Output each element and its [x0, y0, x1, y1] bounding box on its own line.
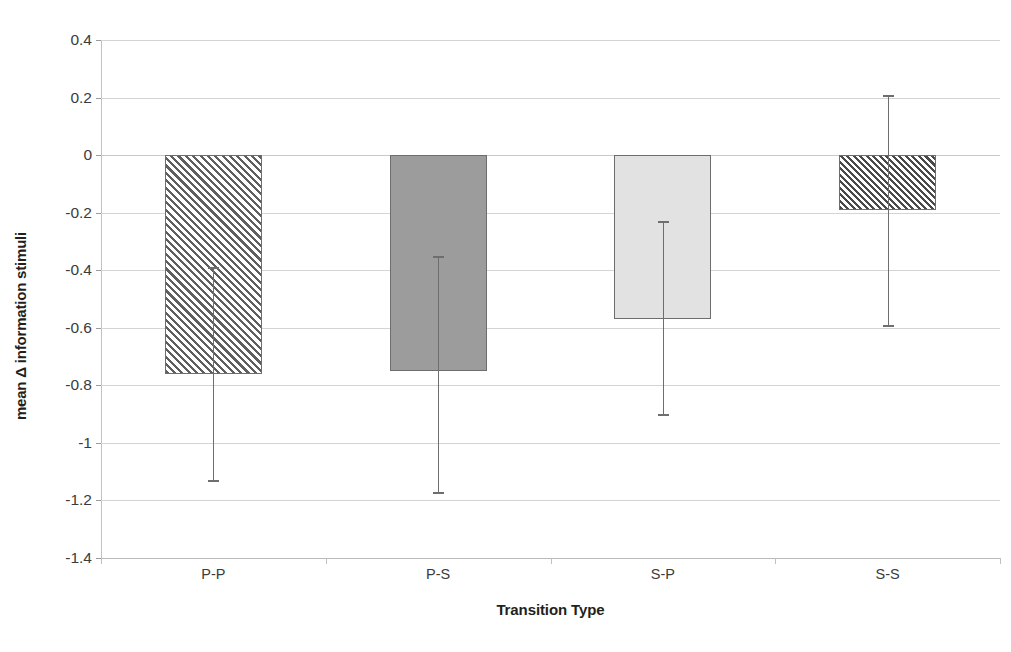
gridline [101, 500, 1000, 501]
error-bar-cap-lower [883, 325, 894, 327]
gridline [101, 98, 1000, 99]
error-bar-cap-lower [208, 480, 219, 482]
x-tick-label-p-p: P-P [201, 566, 225, 582]
y-tick-mark [96, 328, 101, 329]
y-tick-mark [96, 443, 101, 444]
x-tick-mark [101, 558, 102, 564]
y-tick-label: -1.2 [42, 491, 92, 509]
y-tick-label: -1 [42, 434, 92, 452]
x-tick-mark [775, 558, 776, 564]
error-bar-cap-lower [433, 492, 444, 494]
x-tick-mark [1000, 558, 1001, 564]
x-axis-title: Transition Type [101, 601, 1000, 618]
error-bar-stem [663, 221, 664, 414]
y-axis-title: mean Δ information stimuli [0, 0, 40, 652]
error-bar-cap-upper [883, 95, 894, 97]
y-tick-label: -0.6 [42, 319, 92, 337]
y-tick-label: -0.8 [42, 376, 92, 394]
y-tick-mark [96, 385, 101, 386]
error-bar-cap-upper [433, 256, 444, 258]
x-tick-mark [326, 558, 327, 564]
y-tick-label: -0.4 [42, 261, 92, 279]
error-bar-cap-lower [658, 414, 669, 416]
y-tick-mark [96, 270, 101, 271]
y-tick-mark [96, 40, 101, 41]
y-tick-label: -1.4 [42, 549, 92, 567]
error-bar-stem [213, 267, 214, 480]
y-tick-label: 0.2 [42, 89, 92, 107]
gridline [101, 385, 1000, 386]
error-bar-stem [438, 256, 439, 492]
y-tick-mark [96, 98, 101, 99]
x-tick-mark [551, 558, 552, 564]
plot-area [101, 40, 1000, 558]
gridline [101, 443, 1000, 444]
error-bar-stem [888, 95, 889, 325]
error-bar-cap-upper [208, 267, 219, 269]
y-axis-tick-labels: 0.40.20-0.2-0.4-0.6-0.8-1-1.2-1.4 [42, 0, 92, 652]
bar-chart: mean Δ information stimuli 0.40.20-0.2-0… [0, 0, 1011, 652]
gridline [101, 40, 1000, 41]
y-tick-mark [96, 155, 101, 156]
x-tick-label-s-p: S-P [651, 566, 675, 582]
y-tick-label: -0.2 [42, 204, 92, 222]
x-tick-label-p-s: P-S [426, 566, 450, 582]
y-tick-mark [96, 500, 101, 501]
error-bar-cap-upper [658, 221, 669, 223]
y-tick-label: 0 [42, 146, 92, 164]
y-tick-label: 0.4 [42, 31, 92, 49]
x-tick-label-s-s: S-S [876, 566, 900, 582]
y-tick-mark [96, 213, 101, 214]
